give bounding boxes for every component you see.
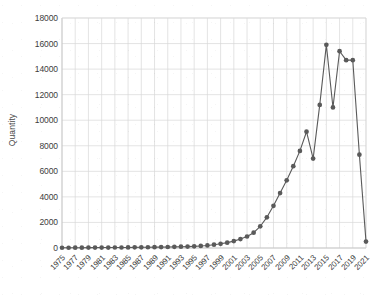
y-axis-tick-label: 6000 (39, 166, 58, 176)
data-point (344, 58, 349, 63)
data-point (304, 129, 309, 134)
data-point (106, 245, 111, 250)
chart-figure: Quantity 0200040006000800010000120001400… (0, 0, 379, 298)
y-axis-tick-label: 14000 (35, 64, 58, 74)
data-point (245, 234, 250, 239)
data-point (119, 245, 124, 250)
data-point (205, 243, 210, 248)
y-axis-tick-label: 16000 (35, 39, 58, 49)
y-axis-tick-label: 10000 (35, 115, 58, 125)
data-point (218, 241, 223, 246)
data-point (132, 245, 137, 250)
data-point (331, 105, 336, 110)
data-point (126, 245, 131, 250)
data-point (66, 245, 71, 250)
data-point (165, 245, 170, 250)
data-point (146, 245, 151, 250)
x-axis-tick-labels: 1975197719791981198319851987198919911993… (0, 252, 379, 298)
data-point (271, 203, 276, 208)
data-point (172, 245, 177, 250)
data-point (364, 239, 369, 244)
data-point (192, 244, 197, 249)
data-point (60, 245, 65, 250)
data-point (231, 239, 236, 244)
series-line (62, 45, 366, 248)
y-axis-tick-label: 18000 (35, 13, 58, 23)
data-point (99, 245, 104, 250)
data-point (212, 242, 217, 247)
data-point (79, 245, 84, 250)
data-point (258, 224, 263, 229)
data-point (93, 245, 98, 250)
data-point (337, 49, 342, 54)
data-point (324, 42, 329, 47)
gridlines (62, 18, 366, 248)
data-point (265, 215, 270, 220)
data-point (350, 58, 355, 63)
y-axis-tick-label: 8000 (39, 141, 58, 151)
data-point (357, 152, 362, 157)
y-axis-tick-label: 4000 (39, 192, 58, 202)
data-point (185, 244, 190, 249)
data-point (159, 245, 164, 250)
data-point (298, 149, 303, 154)
y-axis-tick-label: 2000 (39, 217, 58, 227)
data-point (198, 244, 203, 249)
data-point (251, 230, 256, 235)
data-point (86, 245, 91, 250)
data-point (317, 103, 322, 108)
data-point (238, 237, 243, 242)
data-point (152, 245, 157, 250)
data-point (139, 245, 144, 250)
data-point (73, 245, 78, 250)
data-point (311, 156, 316, 161)
data-point (278, 191, 283, 196)
y-axis-tick-label: 12000 (35, 90, 58, 100)
data-point (291, 164, 296, 169)
data-point (225, 240, 230, 245)
series-markers (60, 42, 369, 250)
data-point (284, 178, 289, 183)
data-point (113, 245, 118, 250)
data-point (179, 244, 184, 249)
